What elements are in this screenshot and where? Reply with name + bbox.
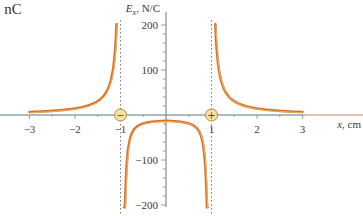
x-tick-label: −1 [115, 123, 127, 135]
positive-charge-sign: + [207, 110, 215, 121]
y-tick-label: −100 [135, 154, 158, 166]
left-branch-curve [30, 24, 117, 112]
y-axis-title: Ex, N/C [125, 2, 160, 17]
x-tick-label: 3 [300, 123, 306, 135]
y-tick-label: 100 [142, 64, 159, 76]
axis-labels: −3−2−1123200100−100−200Ex, N/Cx, cm [24, 2, 362, 211]
x-tick-label: 1 [209, 123, 215, 135]
x-tick-label: −3 [24, 123, 36, 135]
y-tick-label: 200 [142, 19, 159, 31]
field-chart: −+ −3−2−1123200100−100−200Ex, N/Cx, cm [0, 0, 363, 216]
x-tick-label: −2 [69, 123, 81, 135]
left-branch-highlight [30, 25, 117, 113]
x-axis-title: x, cm [336, 118, 361, 130]
negative-charge-sign: − [116, 110, 124, 121]
x-tick-label: 2 [254, 123, 260, 135]
right-branch-curve [215, 24, 302, 112]
y-tick-label: −200 [135, 199, 158, 211]
right-branch-highlight [216, 25, 303, 113]
